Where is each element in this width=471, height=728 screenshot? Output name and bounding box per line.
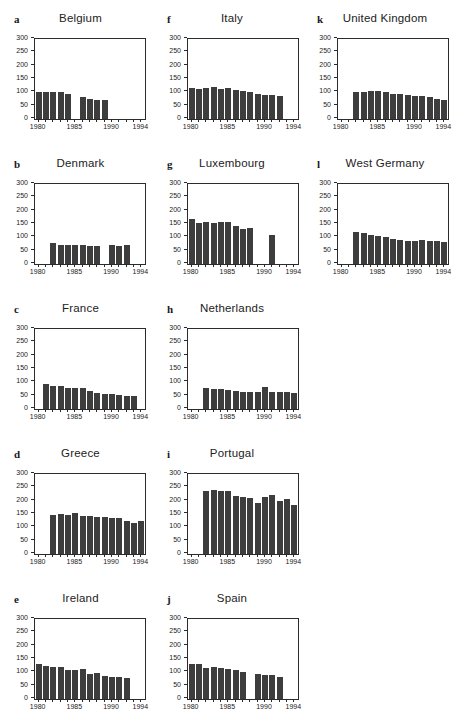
x-tick-mark <box>271 119 272 122</box>
x-tick-mark <box>227 554 228 557</box>
y-tick-label: 250 <box>4 482 28 489</box>
x-axis: 1980198519901994 <box>337 264 447 278</box>
x-tick-mark <box>104 554 105 557</box>
bar-1991 <box>269 235 275 264</box>
x-tick-mark <box>104 264 105 267</box>
x-tick-mark <box>293 264 294 267</box>
bar-1986 <box>80 245 86 264</box>
chart-title: West Germany <box>307 157 463 169</box>
x-tick-mark <box>126 119 127 122</box>
bar-1982 <box>50 92 56 119</box>
bar-1983 <box>58 386 64 409</box>
x-tick-mark <box>205 554 206 557</box>
bar-1982 <box>50 386 56 409</box>
x-tick-mark <box>111 554 112 557</box>
x-tick-mark <box>293 119 294 122</box>
x-tick-label: 1985 <box>215 558 239 565</box>
bar-1981 <box>43 666 49 699</box>
bar-1983 <box>58 667 64 699</box>
bar-1992 <box>124 245 130 264</box>
y-tick-label: 100 <box>4 522 28 529</box>
x-tick-mark <box>348 119 349 122</box>
bar-1982 <box>353 92 359 119</box>
y-tick-label: 100 <box>157 667 181 674</box>
y-tick-label: 300 <box>157 469 181 476</box>
bar-1980 <box>36 664 42 699</box>
x-tick-mark <box>89 264 90 267</box>
x-tick-mark <box>436 119 437 122</box>
x-axis: 1980198519901994 <box>337 119 447 133</box>
x-tick-mark <box>74 264 75 267</box>
x-tick-label: 1990 <box>252 123 276 130</box>
x-tick-mark <box>341 264 342 267</box>
bar-1990 <box>109 677 115 699</box>
x-tick-mark <box>257 264 258 267</box>
x-tick-mark <box>355 119 356 122</box>
y-tick-label: 0 <box>157 694 181 701</box>
bar-1992 <box>124 521 130 554</box>
y-tick-label: 200 <box>4 641 28 648</box>
x-axis: 1980198519901994 <box>187 264 297 278</box>
x-tick-mark <box>111 699 112 702</box>
plot-area <box>187 618 299 700</box>
y-tick-label: 100 <box>157 377 181 384</box>
bar-1989 <box>102 517 108 554</box>
x-tick-mark <box>271 409 272 412</box>
x-tick-mark <box>286 409 287 412</box>
x-tick-mark <box>126 699 127 702</box>
bar-1991 <box>116 518 122 554</box>
panel-header: c France <box>4 294 157 320</box>
y-tick-label: 250 <box>157 337 181 344</box>
x-tick-mark <box>213 409 214 412</box>
x-tick-mark <box>377 264 378 267</box>
x-tick-label: 1985 <box>62 558 86 565</box>
x-tick-label: 1980 <box>26 558 50 565</box>
y-axis: 050100150200250300 <box>4 618 34 698</box>
x-tick-mark <box>407 264 408 267</box>
bar-1983 <box>211 667 217 699</box>
x-tick-mark <box>104 119 105 122</box>
y-tick-label: 300 <box>157 34 181 41</box>
x-tick-label: 1994 <box>281 413 305 420</box>
bar-1986 <box>233 670 239 699</box>
bar-1981 <box>196 664 202 699</box>
grid-spacer-2 <box>307 439 463 584</box>
bar-1985 <box>72 388 78 409</box>
bar-1980 <box>189 219 195 264</box>
x-tick-mark <box>89 409 90 412</box>
panel-header: g Luxembourg <box>157 149 307 175</box>
bar-1992 <box>277 96 283 119</box>
x-tick-mark <box>133 554 134 557</box>
bar-1983 <box>211 490 217 554</box>
x-tick-mark <box>414 264 415 267</box>
bar-1987 <box>87 516 93 554</box>
x-tick-mark <box>140 409 141 412</box>
x-tick-label: 1994 <box>281 268 305 275</box>
x-tick-mark <box>242 409 243 412</box>
chart-panel-italy: f Italy 050100150200250300 1980198519901… <box>157 4 307 149</box>
x-axis: 1980198519901994 <box>34 699 144 713</box>
x-tick-label: 1994 <box>128 703 152 710</box>
x-tick-mark <box>286 264 287 267</box>
bar-1987 <box>87 246 93 264</box>
y-tick-label: 200 <box>4 206 28 213</box>
x-tick-mark <box>279 409 280 412</box>
plot-wrap: 050100150200250300 1980198519901994 <box>157 320 307 432</box>
y-tick-label: 250 <box>157 47 181 54</box>
bar-1992 <box>277 392 283 409</box>
bar-1987 <box>390 239 396 264</box>
x-tick-mark <box>60 699 61 702</box>
chart-title: Portugal <box>157 447 307 459</box>
y-tick-label: 0 <box>157 549 181 556</box>
panel-header: i Portugal <box>157 439 307 465</box>
bar-1986 <box>80 516 86 554</box>
bar-1982 <box>203 88 209 119</box>
chart-title: United Kingdom <box>307 12 463 24</box>
x-tick-mark <box>82 699 83 702</box>
x-tick-mark <box>271 554 272 557</box>
bar-1982 <box>203 222 209 264</box>
x-tick-mark <box>96 699 97 702</box>
y-tick-label: 100 <box>157 87 181 94</box>
x-tick-mark <box>74 554 75 557</box>
y-axis: 050100150200250300 <box>157 38 187 118</box>
